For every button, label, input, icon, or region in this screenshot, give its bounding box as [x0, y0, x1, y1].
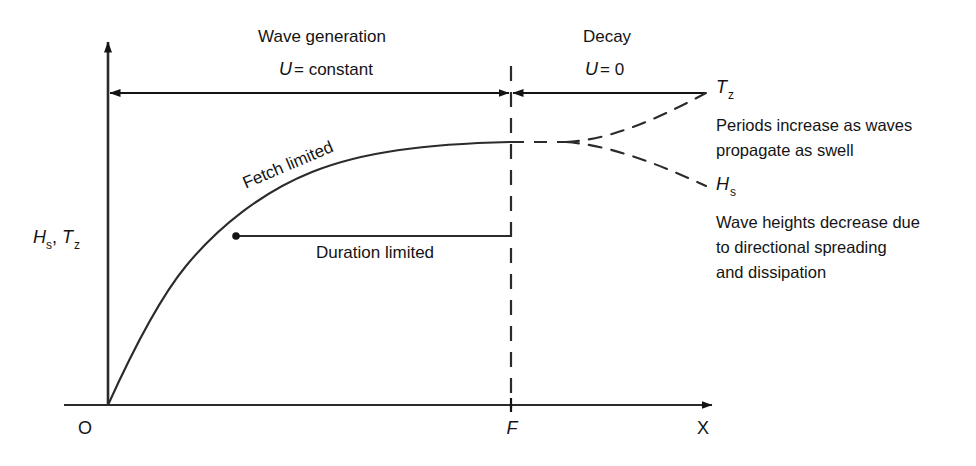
fetch-limited-label: Fetch limited [240, 137, 336, 192]
hs-decay-branch-curve [566, 142, 706, 186]
growth-curve-group [108, 142, 511, 405]
decay-branch-group [511, 93, 706, 186]
origin-label: O [78, 418, 92, 438]
y-axis-label-h: H [33, 227, 47, 247]
tz-branch-label: T z [716, 77, 734, 102]
period-annotation-block: Periods increase as waves propagate as s… [716, 116, 912, 159]
period-annotation-line-1: Periods increase as waves [716, 116, 912, 134]
duration-limited-group [232, 232, 511, 240]
hs-branch-label-main: H [716, 174, 730, 194]
height-annotation-line-1: Wave heights decrease due [716, 213, 920, 231]
generation-condition-equation: = constant [294, 60, 373, 79]
y-axis-label: H s , T z [33, 227, 80, 252]
decay-condition-variable: U [585, 59, 599, 79]
decay-condition-equation: = 0 [600, 60, 624, 79]
decay-label: Decay [583, 27, 632, 46]
duration-limited-label: Duration limited [316, 243, 434, 262]
hs-branch-label: H s [716, 174, 736, 199]
generation-condition-variable: U [279, 59, 293, 79]
tz-decay-branch-curve [566, 93, 706, 142]
wave-growth-decay-diagram: Wave generation U = constant Decay U = 0… [0, 0, 976, 466]
tz-branch-label-subscript: z [728, 88, 734, 102]
hs-branch-label-subscript: s [730, 185, 736, 199]
y-axis-label-comma: , [52, 227, 57, 247]
axis-group [64, 42, 712, 405]
figure-canvas: Wave generation U = constant Decay U = 0… [0, 0, 976, 466]
wave-generation-label: Wave generation [258, 27, 386, 46]
generation-condition-label: U = constant [279, 59, 373, 79]
fetch-limited-growth-curve [108, 142, 511, 405]
duration-limited-marker-dot [232, 232, 240, 240]
period-annotation-line-2: propagate as swell [716, 141, 854, 159]
height-annotation-line-2: to directional spreading [716, 238, 887, 256]
decay-condition-label: U = 0 [585, 59, 624, 79]
height-annotation-block: Wave heights decrease due to directional… [716, 213, 920, 281]
height-annotation-line-3: and dissipation [716, 263, 826, 281]
x-axis-label: X [697, 418, 709, 438]
y-axis-label-t-subscript: z [74, 238, 80, 252]
fetch-label: F [507, 418, 519, 438]
